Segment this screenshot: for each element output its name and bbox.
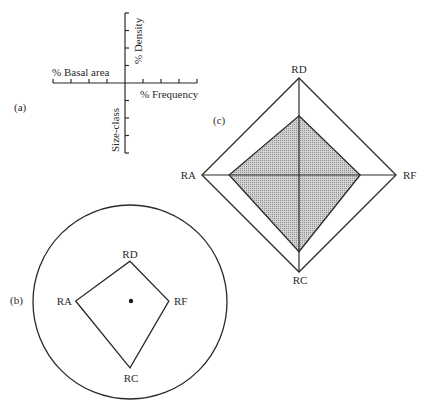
panel-c-tag: (c) <box>213 114 226 127</box>
panel-c: (c) RD RA RF RC <box>181 63 417 286</box>
panel-a-tag: (a) <box>14 101 27 114</box>
panel-b-label-ra: RA <box>57 295 72 307</box>
axis-label-density: % Density <box>132 17 144 64</box>
panel-b-center-dot <box>129 299 133 303</box>
panel-b-label-rd: RD <box>122 248 137 260</box>
panel-b-label-rc: RC <box>124 372 139 384</box>
diagram-canvas: (a) % Basal area % Frequency % Density S… <box>0 0 427 409</box>
panel-b: (b) RD RA RF RC <box>10 205 227 399</box>
panel-b-label-rf: RF <box>174 295 187 307</box>
panel-a: (a) % Basal area % Frequency % Density S… <box>14 13 199 153</box>
panel-a-axes <box>53 13 197 153</box>
panel-b-tag: (b) <box>10 294 23 307</box>
panel-c-label-rc: RC <box>293 274 308 286</box>
axis-label-size-class: Size-class <box>109 108 121 152</box>
axis-label-frequency: % Frequency <box>140 88 199 100</box>
panel-b-kite <box>76 261 169 368</box>
panel-c-label-rd: RD <box>291 63 306 75</box>
axis-label-basal-area: % Basal area <box>52 66 110 78</box>
panel-c-label-ra: RA <box>181 169 196 181</box>
panel-c-label-rf: RF <box>403 169 416 181</box>
